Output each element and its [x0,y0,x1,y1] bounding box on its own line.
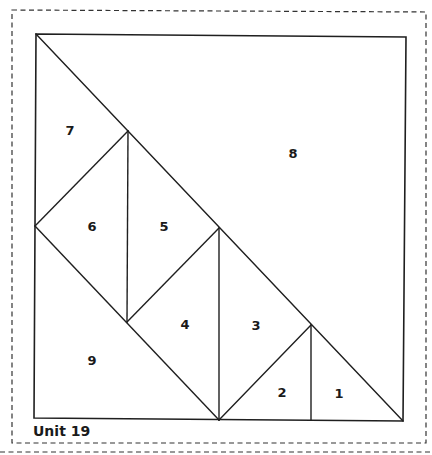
piece-label-1: 1 [334,386,343,401]
foundation-pattern-diagram: 1 2 3 4 5 6 7 8 9 Unit 19 [0,0,432,455]
piece-label-8: 8 [288,146,297,161]
piece-label-4: 4 [180,317,189,332]
piece-label-6: 6 [87,219,96,234]
piece-label-9: 9 [87,353,96,368]
piece-label-5: 5 [159,219,168,234]
unit-title: Unit 19 [33,423,90,439]
piece-label-2: 2 [277,385,286,400]
seam-5-6 [127,131,128,322]
piece-label-3: 3 [251,318,260,333]
piece-label-7: 7 [65,123,74,138]
